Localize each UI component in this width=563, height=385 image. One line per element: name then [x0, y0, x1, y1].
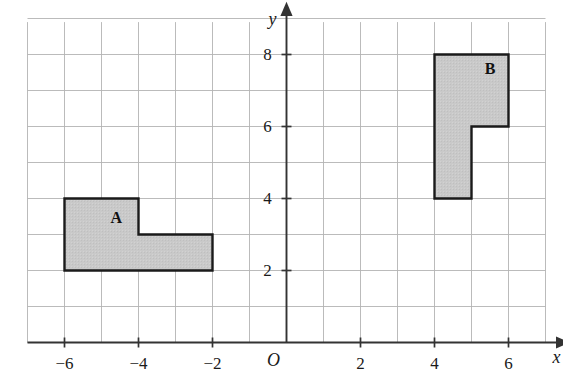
x-tick-label: 6: [504, 354, 513, 374]
coordinate-grid-figure: −6−4−22462468OxyAB: [0, 0, 563, 385]
x-tick-label: 4: [430, 354, 439, 374]
plot-svg: [0, 0, 563, 385]
x-tick-label: −4: [129, 354, 147, 374]
y-tick-label: 2: [263, 261, 272, 281]
shape-a: [65, 199, 213, 271]
y-tick-label: 4: [263, 189, 272, 209]
y-tick-label: 8: [263, 45, 272, 65]
x-axis-label: x: [553, 346, 561, 367]
shape-label-b: B: [485, 60, 496, 78]
y-tick-label: 6: [263, 117, 272, 137]
shape-label-a: A: [111, 209, 123, 227]
shape-b: [435, 55, 509, 199]
x-tick-label: 2: [356, 354, 365, 374]
origin-label: O: [267, 349, 280, 370]
x-tick-label: −6: [55, 354, 73, 374]
y-axis-label: y: [269, 9, 277, 30]
x-tick-label: −2: [203, 354, 221, 374]
